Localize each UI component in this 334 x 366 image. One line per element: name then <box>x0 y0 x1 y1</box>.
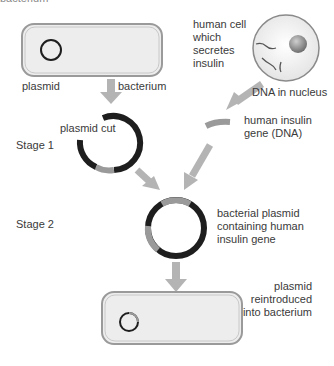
label-dna-in-nucleus: DNA in nucleus <box>252 86 327 99</box>
label-stage-1: Stage 1 <box>16 139 54 152</box>
label-plasmid-cut: plasmid cut <box>60 122 116 135</box>
human-cell <box>253 15 319 81</box>
label-human-insulin-gene: human insulin gene (DNA) <box>244 114 312 140</box>
nucleus-icon <box>289 35 307 53</box>
insulin-gene-fragment <box>206 122 230 126</box>
label-plasmid-reintroduced: plasmid reintroduced into bacterium <box>214 280 312 319</box>
label-human-cell: human cell which secretes insulin <box>193 18 246 70</box>
cutoff-text: bacterium <box>0 0 48 5</box>
arrow-down-2 <box>165 262 187 292</box>
recombinant-plasmid <box>148 200 204 256</box>
label-stage-2: Stage 2 <box>16 218 54 231</box>
label-plasmid: plasmid <box>22 80 60 93</box>
label-recombinant-plasmid: bacterial plasmid containing human insul… <box>217 207 304 246</box>
arrow-diagonal-2 <box>137 170 160 190</box>
label-bacterium: bacterium <box>118 80 166 93</box>
arrow-diagonal-3 <box>184 145 210 190</box>
bacterium-top <box>22 24 162 76</box>
